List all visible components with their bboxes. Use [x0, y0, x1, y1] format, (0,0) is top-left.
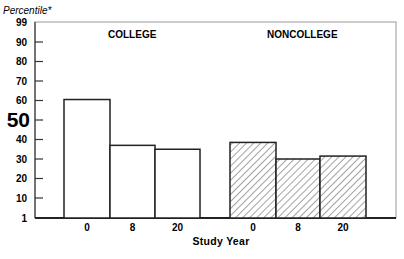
y-tick-label: 50 — [7, 108, 30, 131]
y-tick-label: 30 — [16, 154, 28, 165]
x-tick-label: 0 — [250, 222, 256, 233]
x-tick-label: 20 — [172, 222, 184, 233]
bar-noncollege-year-20 — [320, 156, 366, 218]
bar-college-year-0 — [64, 100, 110, 218]
x-axis-label: Study Year — [192, 235, 249, 247]
bar-noncollege-year-8 — [276, 159, 320, 218]
y-tick-label: 99 — [16, 17, 28, 28]
y-tick-label: 70 — [16, 76, 28, 87]
bar-college-year-8 — [110, 145, 155, 218]
x-tick-label: 0 — [84, 222, 90, 233]
y-ticks: 999080706050403020101 — [7, 17, 43, 224]
y-tick-label: 60 — [16, 95, 28, 106]
group-label-college: COLLEGE — [108, 29, 157, 40]
bars — [64, 100, 366, 218]
bar-college-year-20 — [155, 149, 200, 218]
x-tick-label: 20 — [337, 222, 349, 233]
y-tick-label: 20 — [16, 173, 28, 184]
x-tick-label: 8 — [295, 222, 301, 233]
y-tick-label: 1 — [21, 213, 27, 224]
bar-noncollege-year-0 — [230, 142, 276, 218]
y-axis-label: Percentile* — [3, 5, 52, 16]
bar-chart: Percentile* 999080706050403020101 082008… — [0, 0, 404, 259]
y-tick-label: 90 — [16, 37, 28, 48]
group-label-noncollege: NONCOLLEGE — [267, 29, 338, 40]
y-tick-label: 80 — [16, 56, 28, 67]
x-ticks: 08200820 — [84, 222, 349, 233]
x-tick-label: 8 — [130, 222, 136, 233]
y-tick-label: 40 — [16, 134, 28, 145]
y-tick-label: 10 — [16, 193, 28, 204]
